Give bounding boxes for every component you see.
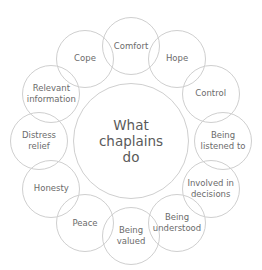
node-label: Cope (56, 30, 114, 88)
chaplains-diagram: What chaplains do ComfortHopeControlBein… (0, 0, 262, 270)
center-label: What chaplains do (73, 83, 189, 199)
